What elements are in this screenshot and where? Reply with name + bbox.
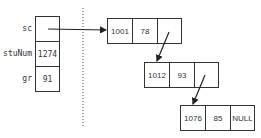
connectors xyxy=(0,0,261,138)
arrow-node2-to-node3 xyxy=(193,75,205,104)
arrow-sc-to-node1 xyxy=(48,29,106,30)
arrow-node1-to-node2 xyxy=(157,32,169,61)
